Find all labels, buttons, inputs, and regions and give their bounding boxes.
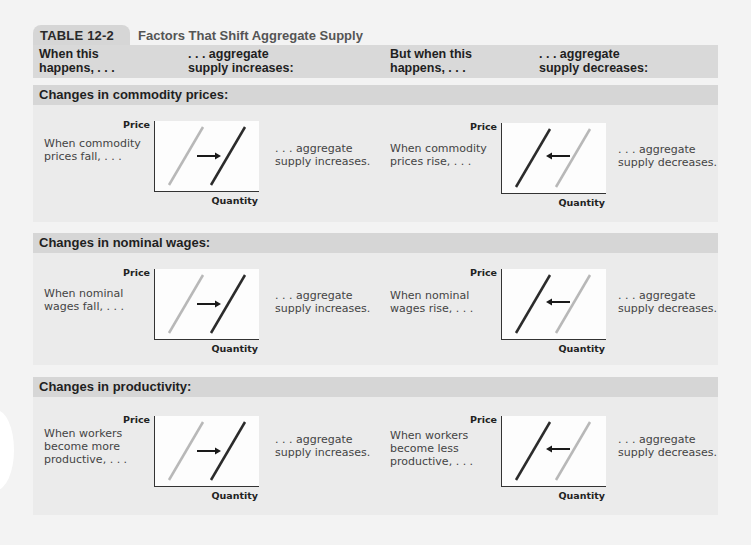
section-body-productivity: When workers become more productive, . .…	[33, 397, 718, 515]
plot-area	[501, 123, 606, 194]
x-axis-label: Quantity	[211, 490, 258, 501]
y-axis-label: Price	[470, 121, 497, 132]
cell-decrease: When commodity prices rise, . . . Price …	[378, 105, 718, 222]
section-title-productivity: Changes in productivity:	[33, 377, 718, 397]
x-axis-label: Quantity	[558, 490, 605, 501]
x-axis-label: Quantity	[211, 195, 258, 206]
effect-text: . . . aggregate supply increases.	[275, 142, 370, 168]
plot-area	[154, 416, 259, 487]
supply-shift-graph-right: Price Quantity	[118, 117, 258, 217]
effect-text: . . . aggregate supply increases.	[275, 289, 370, 315]
effect-text: . . . aggregate supply increases.	[275, 433, 370, 459]
column-header-row: When this happens, . . . . . . aggregate…	[33, 45, 718, 78]
page-edge-decoration	[0, 410, 14, 490]
y-axis-label: Price	[470, 414, 497, 425]
original-supply-curve	[556, 129, 590, 187]
x-axis-label: Quantity	[558, 197, 605, 208]
cause-text: When workers become more productive, . .…	[44, 427, 127, 466]
x-axis-label: Quantity	[558, 343, 605, 354]
shifted-supply-curve	[516, 129, 550, 187]
shifted-supply-curve	[516, 422, 550, 480]
cell-decrease: When workers become less productive, . .…	[378, 397, 718, 515]
table-title: Factors That Shift Aggregate Supply	[130, 25, 363, 45]
effect-text: . . . aggregate supply decreases.	[618, 289, 717, 315]
supply-shift-graph-left: Price Quantity	[465, 265, 605, 365]
y-axis-label: Price	[123, 414, 150, 425]
column-header-cause-increase: When this happens, . . .	[39, 47, 115, 75]
supply-shift-graph-right: Price Quantity	[118, 265, 258, 365]
supply-shift-graph-right: Price Quantity	[118, 412, 258, 512]
x-axis-label: Quantity	[211, 343, 258, 354]
effect-text: . . . aggregate supply decreases.	[618, 143, 717, 169]
cell-decrease: When nominal wages rise, . . . Price Qua…	[378, 253, 718, 365]
y-axis-label: Price	[470, 267, 497, 278]
column-header-decrease: . . . aggregate supply decreases:	[539, 47, 648, 75]
column-header-cause-decrease: But when this happens, . . .	[390, 47, 472, 75]
table-title-row: TABLE 12-2 Factors That Shift Aggregate …	[33, 25, 723, 45]
table-number-tab: TABLE 12-2	[33, 25, 130, 45]
section-title-nominal-wages: Changes in nominal wages:	[33, 233, 718, 253]
plot-area	[501, 416, 606, 487]
cell-increase: When commodity prices fall, . . . Price …	[33, 105, 378, 222]
supply-shift-graph-left: Price Quantity	[465, 412, 605, 512]
plot-area	[501, 269, 606, 340]
column-header-increase: . . . aggregate supply increases:	[188, 47, 294, 75]
section-body-commodity-prices: When commodity prices fall, . . . Price …	[33, 105, 718, 222]
cell-increase: When workers become more productive, . .…	[33, 397, 378, 515]
section-title-commodity-prices: Changes in commodity prices:	[33, 85, 718, 105]
y-axis-label: Price	[123, 119, 150, 130]
supply-shift-graph-left: Price Quantity	[465, 119, 605, 219]
cause-text: When nominal wages rise, . . .	[390, 289, 473, 315]
cause-text: When nominal wages fall, . . .	[44, 287, 124, 313]
effect-text: . . . aggregate supply decreases.	[618, 433, 717, 459]
cell-increase: When nominal wages fall, . . . Price Qua…	[33, 253, 378, 365]
section-body-nominal-wages: When nominal wages fall, . . . Price Qua…	[33, 253, 718, 365]
original-supply-curve	[556, 422, 590, 480]
cause-text: When workers become less productive, . .…	[390, 429, 473, 468]
shifted-supply-curve	[516, 275, 550, 333]
y-axis-label: Price	[123, 267, 150, 278]
plot-area	[154, 121, 259, 192]
original-supply-curve	[556, 275, 590, 333]
plot-area	[154, 269, 259, 340]
